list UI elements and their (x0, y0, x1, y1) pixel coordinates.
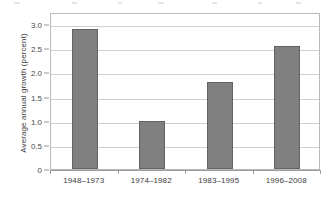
cropped-caption-strip (0, 0, 333, 5)
bar (139, 121, 165, 169)
x-axis-tick-label: 1974–1982 (131, 176, 172, 185)
y-axis-tick-mark (44, 170, 49, 171)
caption-remnant (72, 2, 77, 4)
x-axis-tick-label: 1983–1995 (198, 176, 239, 185)
x-axis-tick-mark (50, 170, 51, 174)
x-axis-tick-label: 1948–1973 (63, 176, 104, 185)
y-axis-tick-mark (44, 73, 49, 74)
caption-remnant (118, 2, 122, 4)
caption-remnant (296, 2, 301, 4)
caption-remnant (212, 2, 217, 4)
bar (274, 46, 300, 169)
y-axis-tick-mark (44, 145, 49, 146)
x-axis-tick-mark (118, 170, 119, 174)
plot-area (50, 13, 320, 170)
y-axis-tick-mark (44, 121, 49, 122)
x-axis-tick-mark (185, 170, 186, 174)
x-axis-tick-mark (320, 170, 321, 174)
y-axis-tick-labels: 00.51.01.52.02.53.0 (22, 0, 42, 201)
caption-remnant (258, 2, 262, 4)
y-axis-tick-label: 2.0 (22, 69, 42, 78)
y-axis-tick-label: 1.5 (22, 93, 42, 102)
y-axis-tick-mark (44, 25, 49, 26)
x-axis-tick-label: 1996–2008 (266, 176, 307, 185)
y-axis-tick-label: 0 (22, 166, 42, 175)
y-axis-tick-label: 1.0 (22, 117, 42, 126)
bar (72, 29, 98, 169)
y-axis-tick-mark (44, 49, 49, 50)
y-axis-tick-label: 2.5 (22, 45, 42, 54)
y-axis-tick-label: 0.5 (22, 141, 42, 150)
y-axis-tick-mark (44, 97, 49, 98)
bar-chart: Average annual growth (percent) 00.51.01… (0, 0, 333, 201)
x-axis-tick-mark (253, 170, 254, 174)
y-axis-tick-label: 3.0 (22, 21, 42, 30)
gridline (51, 26, 319, 27)
caption-remnant (14, 2, 20, 4)
bar (207, 82, 233, 169)
caption-remnant (158, 2, 164, 4)
